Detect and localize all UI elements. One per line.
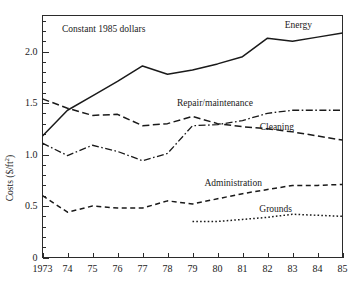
series-line-energy [43, 33, 343, 136]
series-line-administration [43, 184, 343, 212]
x-tick-label: 85 [338, 263, 348, 274]
x-tick-label: 78 [163, 263, 173, 274]
y-axis-ticks [43, 22, 49, 259]
x-axis-ticks [44, 253, 344, 258]
x-axis-tick-labels: 1973747576777879808182838485 [33, 263, 348, 274]
y-axis-title: Costs ($/ft2) [3, 155, 16, 202]
y-axis-tick-labels: 00.51.01.52.0 [25, 46, 38, 263]
x-tick-label: 1973 [33, 263, 53, 274]
y-tick-label: 1.5 [25, 97, 38, 108]
x-tick-label: 76 [113, 263, 123, 274]
x-tick-label: 79 [188, 263, 198, 274]
series-label-grounds: Grounds [259, 204, 292, 214]
series-label-administration: Administration [204, 178, 262, 188]
x-tick-label: 80 [213, 263, 223, 274]
x-tick-label: 84 [313, 263, 323, 274]
figure-container: 00.51.01.52.0 19737475767778798081828384… [0, 0, 358, 281]
x-tick-label: 82 [263, 263, 273, 274]
x-tick-label: 83 [288, 263, 298, 274]
y-tick-label: 1.0 [25, 149, 38, 160]
series-line-cleaning [43, 110, 343, 160]
y-tick-label: 0 [33, 252, 38, 263]
series-line-grounds [193, 214, 343, 221]
series-label-repair-maintenance: Repair/maintenance [177, 98, 253, 108]
series-label-energy: Energy [285, 20, 313, 30]
cost-trends-line-chart: 00.51.01.52.0 19737475767778798081828384… [0, 0, 358, 281]
x-tick-label: 77 [138, 263, 148, 274]
y-tick-label: 2.0 [25, 46, 38, 57]
data-series-group [43, 33, 343, 221]
series-label-cleaning: Cleaning [260, 122, 295, 132]
x-tick-label: 81 [238, 263, 248, 274]
x-tick-label: 75 [88, 263, 98, 274]
y-tick-label: 0.5 [25, 200, 38, 211]
chart-annotation: Constant 1985 dollars [62, 24, 146, 34]
x-tick-label: 74 [63, 263, 73, 274]
svg-text:Costs ($/ft2): Costs ($/ft2) [3, 155, 16, 202]
